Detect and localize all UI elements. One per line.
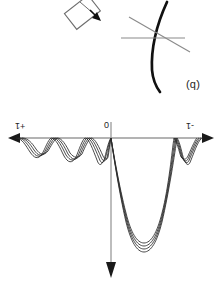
panel-b-label: (q)	[186, 78, 200, 90]
arc-shape	[152, 2, 167, 92]
panel-a-pattern-plot: (e)	[0, 112, 222, 292]
axis-tick-label-plus-one: +1	[15, 121, 25, 131]
pattern-curve-group	[16, 138, 203, 252]
panel-b-geometry-diagram: (q)	[0, 0, 222, 112]
axis-tick-label-zero: 0	[104, 120, 109, 130]
axis-right-arrowhead	[202, 133, 214, 143]
pattern-curve	[16, 138, 203, 252]
pattern-curve	[18, 138, 201, 249]
figure-root: (q)	[0, 0, 222, 292]
panel-b-svg	[0, 0, 222, 112]
axis-down-arrowhead	[106, 262, 116, 278]
panel-a-svg	[0, 112, 222, 292]
axis-tick-label-minus-one: -1	[186, 121, 194, 131]
pattern-curve	[22, 138, 197, 243]
